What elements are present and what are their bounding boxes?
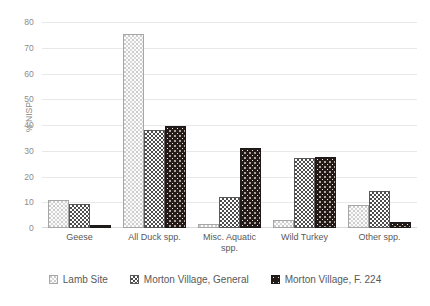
bar[interactable]: [240, 148, 261, 228]
bar-group: [42, 22, 117, 228]
y-axis-tick-0: 0: [29, 223, 34, 233]
bar[interactable]: [69, 204, 90, 228]
bar-group: [192, 22, 267, 228]
x-axis-label: Geese: [42, 232, 117, 254]
bar-group: [267, 22, 342, 228]
x-axis-category-labels: GeeseAll Duck spp.Misc. Aquaticspp.Wild …: [42, 232, 417, 254]
bar[interactable]: [315, 157, 336, 228]
bar[interactable]: [348, 205, 369, 228]
y-axis-tick-labels: 01020304050607080: [0, 22, 40, 228]
y-axis-tick-50: 50: [24, 94, 34, 104]
bar[interactable]: [144, 130, 165, 228]
legend-label: Morton Village, F. 224: [285, 274, 382, 285]
legend-swatch-icon: [271, 275, 280, 284]
bar[interactable]: [198, 224, 219, 228]
y-axis-tick-70: 70: [24, 43, 34, 53]
bar[interactable]: [123, 34, 144, 228]
x-axis-label-line: All Duck spp.: [119, 232, 190, 243]
bar[interactable]: [273, 220, 294, 228]
x-axis-label-line: spp.: [194, 243, 265, 254]
y-axis-tick-10: 10: [24, 197, 34, 207]
y-axis-tick-20: 20: [24, 172, 34, 182]
bar-groups: [42, 22, 417, 228]
legend-item[interactable]: Lamb Site: [49, 274, 108, 285]
x-axis-label: Other spp.: [342, 232, 417, 254]
x-axis-label: Wild Turkey: [267, 232, 342, 254]
bar[interactable]: [390, 222, 411, 228]
bar[interactable]: [369, 191, 390, 228]
legend-item[interactable]: Morton Village, F. 224: [271, 274, 382, 285]
y-axis-tick-40: 40: [24, 120, 34, 130]
bar[interactable]: [90, 225, 111, 228]
legend-label: Morton Village, General: [144, 274, 249, 285]
legend-swatch-icon: [49, 275, 58, 284]
legend-swatch-icon: [130, 275, 139, 284]
x-axis-label: All Duck spp.: [117, 232, 192, 254]
y-axis-tick-60: 60: [24, 69, 34, 79]
y-axis-tick-80: 80: [24, 17, 34, 27]
x-axis-label: Misc. Aquaticspp.: [192, 232, 267, 254]
x-axis-label-line: Wild Turkey: [269, 232, 340, 243]
bar-group: [117, 22, 192, 228]
x-axis-label-line: Other spp.: [344, 232, 415, 243]
plot-area: [42, 22, 417, 228]
bar[interactable]: [219, 197, 240, 228]
bar[interactable]: [165, 126, 186, 228]
legend-label: Lamb Site: [63, 274, 108, 285]
x-axis-label-line: Misc. Aquatic: [194, 232, 265, 243]
x-axis-label-line: Geese: [44, 232, 115, 243]
bar[interactable]: [294, 158, 315, 228]
bar[interactable]: [48, 200, 69, 228]
chart-legend: Lamb SiteMorton Village, GeneralMorton V…: [0, 274, 430, 285]
legend-item[interactable]: Morton Village, General: [130, 274, 249, 285]
y-axis-tick-30: 30: [24, 146, 34, 156]
bar-chart: % NISP 01020304050607080 GeeseAll Duck s…: [0, 0, 430, 306]
bar-group: [342, 22, 417, 228]
